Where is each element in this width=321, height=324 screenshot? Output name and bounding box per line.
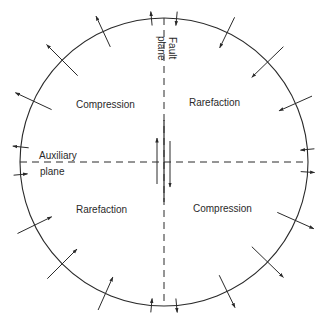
quadrant-label-upper-left: Compression [76, 100, 135, 110]
first-motion-arrow-icon [96, 16, 110, 47]
quadrant-label-upper-right: Rarefaction [189, 98, 240, 108]
first-motion-arrow-icon [151, 12, 152, 26]
auxiliary-plane-label-line2: plane [40, 167, 64, 177]
first-motion-arrow-icon [18, 217, 52, 234]
first-motion-arrow-icon [176, 12, 177, 26]
first-motion-arrow-icon [220, 17, 235, 48]
first-motion-arrow-icon [47, 45, 78, 76]
first-motion-arrow-icon [277, 212, 314, 228]
first-motion-arrow-icon [151, 299, 152, 313]
first-motion-arrow-icon [14, 174, 28, 175]
first-motion-arrow-icon [15, 93, 51, 110]
auxiliary-plane-label-line1: Auxiliary [39, 151, 77, 161]
fault-plane-label-line1: Fault [167, 37, 177, 59]
first-motion-arrow-icon [301, 149, 315, 150]
focal-mechanism-diagram: Compression Rarefaction Rarefaction Comp… [0, 0, 321, 324]
quadrant-label-lower-right: Compression [193, 204, 252, 214]
first-motion-arrow-icon [219, 275, 235, 307]
first-motion-arrow-icon [47, 249, 77, 279]
first-motion-arrow-icon [279, 96, 312, 111]
first-motion-arrow-icon [98, 277, 113, 310]
first-motion-arrow-icon [301, 172, 315, 173]
quadrant-label-lower-left: Rarefaction [76, 205, 127, 215]
first-motion-arrow-icon [176, 299, 177, 313]
fault-plane-label-line2: plane [156, 36, 166, 60]
